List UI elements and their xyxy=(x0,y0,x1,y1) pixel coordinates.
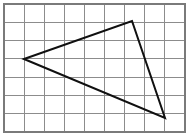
grid-lines xyxy=(4,4,185,132)
grid-outer-border xyxy=(4,4,185,132)
triangle-shape xyxy=(24,21,165,118)
figure-canvas xyxy=(0,0,190,136)
geometry-figure xyxy=(0,0,190,136)
triangle-outline xyxy=(24,21,165,118)
grid-border xyxy=(4,4,185,132)
